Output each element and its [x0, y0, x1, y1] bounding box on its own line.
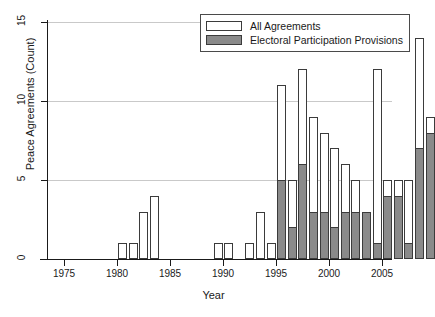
bar-all-agreements-2000 — [373, 69, 382, 259]
bar-all-agreements-1976 — [118, 243, 127, 259]
x-tick-2005 — [382, 260, 383, 266]
bar-electoral-participation-1996 — [330, 227, 339, 259]
bar-all-agreements-1986 — [224, 243, 233, 259]
y-tick-5 — [41, 180, 48, 181]
legend-swatch-icon-electoral-participation-provisions — [206, 35, 242, 45]
bar-electoral-participation-1998 — [351, 212, 360, 259]
bar-all-agreements-1985 — [214, 243, 223, 259]
x-tick-1980 — [117, 260, 118, 266]
x-tick-1990 — [223, 260, 224, 266]
legend-item-electoral-participation-provisions: Electoral Participation Provisions — [206, 33, 403, 47]
y-tick-label-0: 0 — [16, 243, 27, 273]
y-tick-label-5: 5 — [16, 164, 27, 194]
bar-all-agreements-1988 — [245, 243, 254, 259]
legend-item-all-agreements: All Agreements — [206, 19, 403, 33]
bar-electoral-participation-1997 — [341, 212, 350, 259]
bar-electoral-participation-1992 — [288, 227, 297, 259]
y-tick-label-15: 15 — [16, 6, 27, 36]
x-tick-label-2005: 2005 — [362, 268, 402, 279]
x-tick-label-1990: 1990 — [203, 268, 243, 279]
plot-area — [48, 20, 392, 259]
bar-electoral-participation-2000 — [373, 243, 382, 259]
y-tick-10 — [41, 101, 48, 102]
x-tick-label-2000: 2000 — [309, 268, 349, 279]
bar-electoral-participation-1999 — [362, 212, 371, 259]
bar-electoral-participation-2003 — [404, 243, 413, 259]
x-tick-2000 — [329, 260, 330, 266]
x-tick-label-1995: 1995 — [256, 268, 296, 279]
bar-electoral-participation-2001 — [383, 196, 392, 259]
legend-label-electoral-participation-provisions: Electoral Participation Provisions — [250, 34, 403, 46]
bar-all-agreements-1989 — [256, 212, 265, 259]
x-tick-label-1985: 1985 — [150, 268, 190, 279]
bar-electoral-participation-1991 — [277, 180, 286, 259]
x-tick-label-1980: 1980 — [97, 268, 137, 279]
bar-electoral-participation-1995 — [320, 212, 329, 259]
x-tick-label-1975: 1975 — [44, 268, 84, 279]
bar-all-agreements-1990 — [267, 243, 276, 259]
bar-electoral-participation-2004 — [415, 148, 424, 259]
bar-all-agreements-1977 — [129, 243, 138, 259]
bar-electoral-participation-1994 — [309, 212, 318, 259]
bar-all-agreements-1978 — [139, 212, 148, 259]
x-axis-line — [40, 259, 392, 260]
x-tick-1995 — [276, 260, 277, 266]
x-tick-1975 — [64, 260, 65, 266]
y-tick-label-10: 10 — [16, 85, 27, 115]
x-axis-title: Year — [0, 289, 427, 301]
bar-electoral-participation-2005 — [426, 133, 435, 259]
bar-electoral-participation-2002 — [394, 196, 403, 259]
legend-label-all-agreements: All Agreements — [250, 20, 321, 32]
y-tick-0 — [41, 259, 48, 260]
legend-swatch-icon-all-agreements — [206, 21, 242, 31]
gridline-y-10 — [48, 101, 392, 102]
x-tick-1985 — [170, 260, 171, 266]
bar-electoral-participation-1993 — [298, 164, 307, 259]
y-tick-15 — [41, 22, 48, 23]
chart-legend: All Agreements Electoral Participation P… — [200, 14, 410, 52]
bar-all-agreements-1979 — [150, 196, 159, 259]
